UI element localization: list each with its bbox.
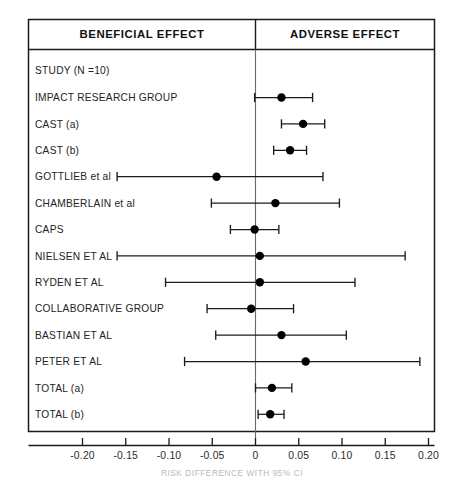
point-estimate-marker bbox=[301, 357, 309, 365]
point-estimate-marker bbox=[271, 199, 279, 207]
point-estimate-marker bbox=[299, 120, 307, 128]
point-estimate-marker bbox=[266, 410, 274, 418]
point-estimate-marker bbox=[277, 93, 285, 101]
x-axis-tick-label: 0.10 bbox=[331, 450, 352, 461]
point-estimate-marker bbox=[256, 252, 264, 260]
x-axis-tick-label: 0 bbox=[253, 450, 259, 461]
row-label: NIELSEN ET AL bbox=[35, 251, 112, 262]
forest-plot-canvas: BENEFICIAL EFFECT ADVERSE EFFECT STUDY (… bbox=[0, 0, 457, 480]
point-estimate-marker bbox=[256, 278, 264, 286]
row-label: IMPACT RESEARCH GROUP bbox=[35, 92, 177, 103]
row-label: RYDEN ET AL bbox=[35, 277, 104, 288]
row-label: CHAMBERLAIN et al bbox=[35, 198, 135, 209]
x-axis-tick-label: 0.20 bbox=[418, 450, 439, 461]
point-estimate-marker bbox=[250, 225, 258, 233]
x-axis-tick-label: -0.20 bbox=[70, 450, 95, 461]
point-estimate-marker bbox=[286, 146, 294, 154]
x-axis-tick-label: -0.10 bbox=[157, 450, 182, 461]
x-axis-caption: RISK DIFFERENCE WITH 95% CI bbox=[161, 469, 303, 478]
header-adverse-effect: ADVERSE EFFECT bbox=[290, 28, 400, 40]
point-estimate-marker bbox=[212, 173, 220, 181]
row-label: PETER ET AL bbox=[35, 356, 102, 367]
x-axis-tick-label: -0.05 bbox=[200, 450, 225, 461]
forest-plot-figure: BENEFICIAL EFFECT ADVERSE EFFECT STUDY (… bbox=[0, 0, 457, 480]
row-label: GOTTLIEB et al bbox=[35, 171, 111, 182]
row-header-study: STUDY (N =10) bbox=[35, 65, 110, 76]
row-label: COLLABORATIVE GROUP bbox=[35, 303, 164, 314]
row-label: CAST (a) bbox=[35, 119, 79, 130]
row-label: TOTAL (b) bbox=[35, 409, 84, 420]
row-label: TOTAL (a) bbox=[35, 383, 84, 394]
point-estimate-marker bbox=[247, 305, 255, 313]
point-estimate-marker bbox=[277, 331, 285, 339]
x-axis-tick-label: 0.05 bbox=[288, 450, 309, 461]
row-label: CAPS bbox=[35, 224, 64, 235]
header-beneficial-effect: BENEFICIAL EFFECT bbox=[80, 28, 205, 40]
row-label: CAST (b) bbox=[35, 145, 79, 156]
x-axis-tick-label: -0.15 bbox=[113, 450, 138, 461]
point-estimate-marker bbox=[268, 384, 276, 392]
x-axis-tick-label: 0.15 bbox=[375, 450, 396, 461]
row-label: BASTIAN ET AL bbox=[35, 330, 112, 341]
